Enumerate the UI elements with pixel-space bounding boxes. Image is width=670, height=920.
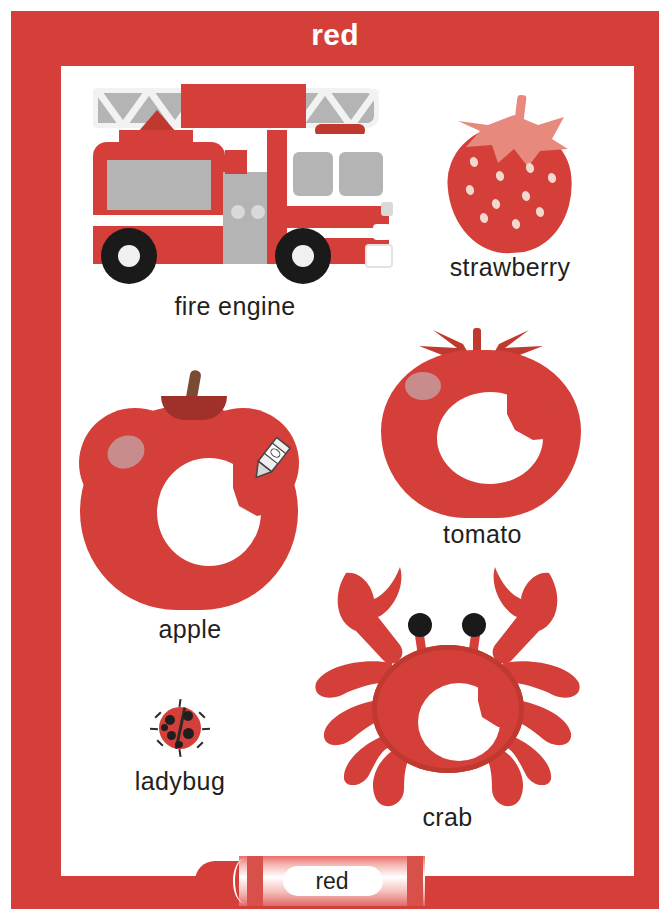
item-strawberry[interactable]: strawberry	[430, 95, 590, 260]
crab-icon	[310, 565, 585, 815]
item-apple[interactable]: apple	[75, 370, 305, 615]
tomato-icon	[375, 320, 590, 525]
item-label-fire-engine: fire engine	[65, 292, 405, 321]
fire-engine-icon	[75, 80, 395, 280]
ladybug-icon	[145, 695, 215, 765]
item-label-ladybug: ladybug	[100, 767, 260, 796]
item-label-tomato: tomato	[375, 520, 590, 549]
page-title: red	[11, 18, 659, 52]
color-poster: red	[0, 0, 670, 920]
item-fire-engine[interactable]: fire engine	[75, 80, 395, 280]
item-tomato[interactable]: tomato	[375, 320, 590, 525]
apple-icon	[75, 370, 305, 615]
crayon[interactable]: red	[195, 852, 475, 910]
item-label-strawberry: strawberry	[410, 253, 610, 282]
item-label-apple: apple	[75, 615, 305, 644]
item-label-crab: crab	[310, 803, 585, 832]
item-ladybug[interactable]: ladybug	[145, 695, 215, 765]
strawberry-icon	[430, 95, 590, 260]
item-crab[interactable]: crab	[310, 565, 585, 815]
crayon-label: red	[239, 865, 425, 897]
